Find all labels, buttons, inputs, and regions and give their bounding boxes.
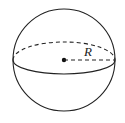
equator-back-dashed	[13, 42, 115, 60]
radius-label: R	[83, 44, 92, 59]
sphere-figure: R	[0, 0, 125, 123]
sphere-diagram: R	[0, 0, 125, 123]
